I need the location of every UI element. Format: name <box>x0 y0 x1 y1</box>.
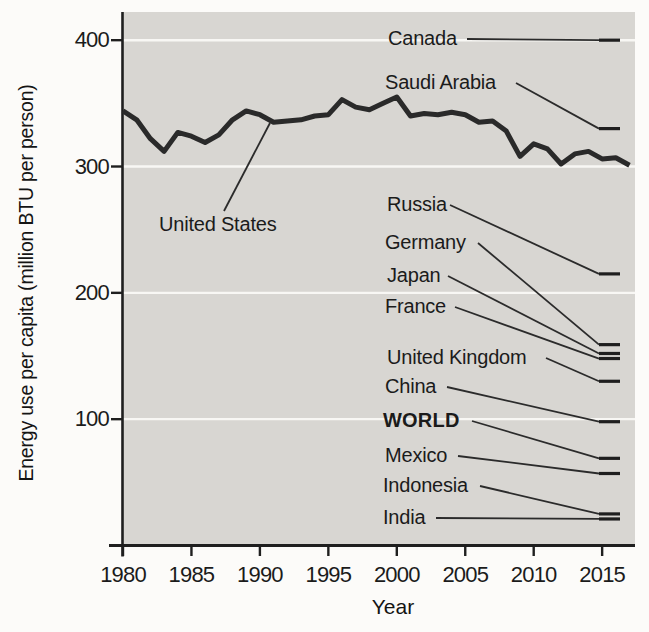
country-label-germany: Germany <box>385 231 466 253</box>
leader-line-canada <box>467 39 599 40</box>
x-axis-title: Year <box>372 595 414 619</box>
country-label-saudi-arabia: Saudi Arabia <box>385 71 496 93</box>
country-label-india: India <box>383 506 425 528</box>
y-axis-title: Energy use per capita (million BTU per p… <box>15 84 38 481</box>
y-tick-label-400: 400 <box>45 27 109 53</box>
country-label-japan: Japan <box>387 264 441 286</box>
country-label-mexico: Mexico <box>385 444 447 466</box>
country-label-world: WORLD <box>383 409 460 431</box>
x-tick-label-1980: 1980 <box>86 562 160 588</box>
x-tick-label-2000: 2000 <box>360 562 434 588</box>
y-tick-label-200: 200 <box>45 280 109 306</box>
country-label-russia: Russia <box>387 193 447 215</box>
x-tick-label-1985: 1985 <box>154 562 228 588</box>
country-label-indonesia: Indonesia <box>383 474 468 496</box>
x-tick-label-1995: 1995 <box>291 562 365 588</box>
energy-use-chart <box>0 0 649 632</box>
x-tick-label-2015: 2015 <box>565 562 639 588</box>
country-label-china: China <box>385 375 436 397</box>
country-label-france: France <box>385 295 446 317</box>
country-label-united-kingdom: United Kingdom <box>387 346 527 368</box>
figure-canvas: 1980198519901995200020052010201510020030… <box>0 0 649 632</box>
series-label-united-states: United States <box>159 213 276 236</box>
y-tick-label-100: 100 <box>45 406 109 432</box>
leader-line-india <box>436 518 599 519</box>
x-tick-label-2005: 2005 <box>428 562 502 588</box>
plot-area <box>123 12 636 546</box>
y-tick-label-300: 300 <box>45 154 109 180</box>
x-tick-label-2010: 2010 <box>497 562 571 588</box>
x-tick-label-1990: 1990 <box>223 562 297 588</box>
country-label-canada: Canada <box>388 27 457 49</box>
